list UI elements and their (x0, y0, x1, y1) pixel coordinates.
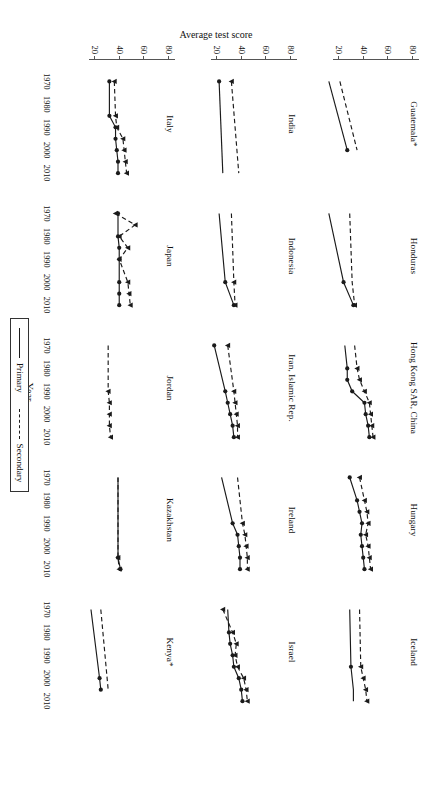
plot-area (75, 466, 161, 576)
y-axis-spine (89, 59, 175, 60)
secondary-data-point (116, 567, 121, 572)
panel-indonesia: Indonesia (175, 194, 297, 318)
secondary-data-point (354, 366, 359, 371)
x-axis-tick-label: 2010 (42, 165, 51, 182)
legend: Primary Secondary (10, 318, 29, 492)
plot-svg (75, 598, 161, 708)
secondary-series-line (350, 213, 355, 305)
x-axis-tick-label: 1990 (42, 515, 51, 532)
panel-title: Jordan (164, 326, 175, 450)
secondary-data-point (360, 676, 365, 681)
x-axis-tick-label: 1970 (42, 73, 51, 90)
panel-title: Guatemala* (408, 62, 419, 186)
plot-area (75, 202, 161, 312)
secondary-data-point (362, 498, 367, 503)
primary-data-point (341, 280, 345, 284)
plot-svg (319, 466, 405, 576)
panel-row: Guatemala*HondurasHong Kong SAR, ChinaHu… (297, 62, 419, 722)
panel-title: Italy (164, 62, 175, 186)
x-axis-tick-label: 1990 (42, 251, 51, 268)
primary-data-point (113, 137, 117, 141)
legend-line-dashed-icon (20, 409, 21, 439)
y-axis-tick-mark (168, 56, 169, 60)
primary-data-point (357, 510, 361, 514)
y-axis-row: 80604020 (311, 0, 433, 62)
primary-data-point (116, 160, 120, 164)
x-axis-tick-label: 2010 (42, 297, 51, 314)
x-axis-tick-label: 1980 (42, 492, 51, 509)
panel-ireland: Ireland (175, 458, 297, 582)
y-axis-tick-mark (241, 56, 242, 60)
y-axis-tick-label: 40 (359, 28, 369, 54)
primary-data-point (349, 665, 353, 669)
plot-area (197, 466, 283, 576)
plot-area (319, 70, 405, 180)
y-axis-tick-mark (265, 56, 266, 60)
plot-svg (197, 466, 283, 576)
panel-title: Japan (164, 194, 175, 318)
primary-data-point (238, 567, 242, 571)
primary-data-point (360, 544, 364, 548)
legend-item-secondary: Secondary (15, 409, 25, 483)
x-axis-tick-label: 1980 (42, 96, 51, 113)
x-axis-tick-label: 1980 (42, 360, 51, 377)
plot-area (319, 598, 405, 708)
plot-svg (319, 598, 405, 708)
x-axis-tick-label: 1970 (42, 337, 51, 354)
y-axis-tick-mark (290, 56, 291, 60)
secondary-series-line (360, 609, 367, 701)
panel-title: Honduras (408, 194, 419, 318)
primary-data-point (231, 521, 235, 525)
primary-data-point (348, 475, 352, 479)
plot-area (197, 70, 283, 180)
panel-iran-islamic-rep: Iran, Islamic Rep. (175, 326, 297, 450)
primary-data-point (226, 401, 230, 405)
y-axis-tick-label: 80 (164, 28, 174, 54)
plot-svg (197, 70, 283, 180)
panel-japan: Japan (53, 194, 175, 318)
y-axis-tick-label: 20 (334, 28, 344, 54)
plot-svg (75, 334, 161, 444)
primary-data-point (117, 280, 121, 284)
x-axis-tick-label: 2000 (42, 538, 51, 555)
y-axis-tick-label: 20 (212, 28, 222, 54)
legend-item-primary: Primary (15, 328, 25, 393)
x-axis-tick-label: 1980 (42, 228, 51, 245)
primary-data-point (345, 366, 349, 370)
x-axis-tick-label: 2000 (42, 406, 51, 423)
primary-data-point (228, 412, 232, 416)
x-axis-tick-label: 1990 (42, 119, 51, 136)
plot-svg (197, 334, 283, 444)
panel-title: Indonesia (286, 194, 297, 318)
panel-iceland: Iceland (297, 590, 419, 714)
primary-series-line (329, 213, 354, 305)
plot-svg (75, 70, 161, 180)
y-axis-tick-label: 80 (408, 28, 418, 54)
panel-jordan: Jordan (53, 326, 175, 450)
y-axis-tick-label: 40 (115, 28, 125, 54)
secondary-data-point (108, 435, 113, 440)
primary-data-point (345, 378, 349, 382)
plot-area (197, 202, 283, 312)
primary-data-point (228, 642, 232, 646)
y-axis-tick-mark (143, 56, 144, 60)
y-axis-tick-mark (412, 56, 413, 60)
x-axis-tick-label: 2000 (42, 670, 51, 687)
primary-data-point (223, 280, 227, 284)
y-axis-tick-label: 60 (139, 28, 149, 54)
primary-data-point (107, 114, 111, 118)
panel-india: India (175, 62, 297, 186)
panel-title: Iceland (408, 590, 419, 714)
y-axis-tick-label: 80 (286, 28, 296, 54)
primary-data-point (115, 148, 119, 152)
panel-title: Iran, Islamic Rep. (286, 326, 297, 450)
primary-data-point (362, 567, 366, 571)
y-axis-row: 80604020 (67, 0, 189, 62)
primary-series-line (219, 213, 234, 305)
primary-data-point (362, 401, 366, 405)
y-axis-tick-label: 60 (383, 28, 393, 54)
y-axis-spine (333, 59, 419, 60)
x-axis-tick-label: 1970 (42, 601, 51, 618)
panel-title: Kenya* (164, 590, 175, 714)
primary-data-point (223, 389, 227, 393)
